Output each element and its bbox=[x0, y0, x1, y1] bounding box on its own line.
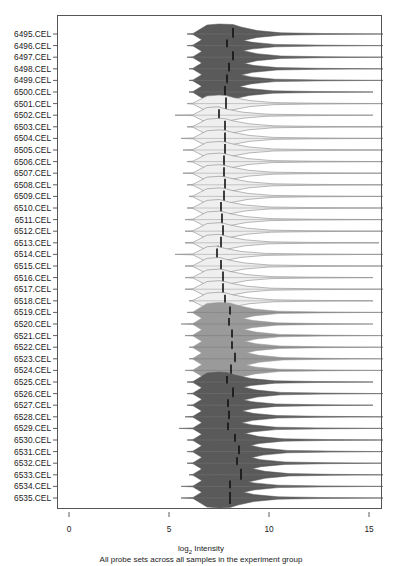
x-axis-title-base: log bbox=[178, 544, 189, 553]
y-tick-label: 6510.CEL bbox=[14, 203, 51, 213]
x-tick-label: 10 bbox=[264, 524, 274, 534]
y-tick-label: 6525.CEL bbox=[14, 377, 51, 387]
violin-chart: 6495.CEL6496.CEL6497.CEL6498.CEL6499.CEL… bbox=[0, 0, 402, 566]
y-tick-label: 6519.CEL bbox=[14, 307, 51, 317]
y-tick-label: 6497.CEL bbox=[14, 52, 51, 62]
x-tick-label: 15 bbox=[364, 524, 374, 534]
x-axis-title: log2 Intensity bbox=[0, 544, 402, 555]
x-tick-label: 5 bbox=[167, 524, 172, 534]
y-tick-label: 6533.CEL bbox=[14, 470, 51, 480]
y-tick-label: 6531.CEL bbox=[14, 447, 51, 457]
y-tick-label: 6524.CEL bbox=[14, 365, 51, 375]
y-tick-label: 6500.CEL bbox=[14, 87, 51, 97]
y-tick-label: 6529.CEL bbox=[14, 423, 51, 433]
y-tick-label: 6515.CEL bbox=[14, 261, 51, 271]
y-tick-label: 6503.CEL bbox=[14, 122, 51, 132]
y-tick-label: 6499.CEL bbox=[14, 75, 51, 85]
y-tick-label: 6508.CEL bbox=[14, 180, 51, 190]
y-tick-label: 6506.CEL bbox=[14, 157, 51, 167]
y-tick-label: 6512.CEL bbox=[14, 226, 51, 236]
y-tick-label: 6501.CEL bbox=[14, 99, 51, 109]
y-tick-label: 6522.CEL bbox=[14, 342, 51, 352]
y-tick-label: 6535.CEL bbox=[14, 493, 51, 503]
y-tick-label: 6507.CEL bbox=[14, 168, 51, 178]
y-tick-label: 6520.CEL bbox=[14, 319, 51, 329]
y-tick-label: 6527.CEL bbox=[14, 400, 51, 410]
y-tick-label: 6521.CEL bbox=[14, 331, 51, 341]
y-tick-label: 6532.CEL bbox=[14, 458, 51, 468]
y-tick-label: 6517.CEL bbox=[14, 284, 51, 294]
y-tick-label: 6495.CEL bbox=[14, 29, 51, 39]
y-tick-label: 6496.CEL bbox=[14, 41, 51, 51]
violin-layer bbox=[175, 24, 383, 508]
y-tick-label: 6530.CEL bbox=[14, 435, 51, 445]
y-tick-label: 6498.CEL bbox=[14, 64, 51, 74]
chart-subtitle: All probe sets across all samples in the… bbox=[0, 555, 402, 564]
y-tick-label: 6523.CEL bbox=[14, 354, 51, 364]
y-axis: 6495.CEL6496.CEL6497.CEL6498.CEL6499.CEL… bbox=[14, 29, 57, 503]
y-tick-label: 6504.CEL bbox=[14, 133, 51, 143]
y-tick-label: 6505.CEL bbox=[14, 145, 51, 155]
violin-row bbox=[181, 488, 383, 508]
y-tick-label: 6509.CEL bbox=[14, 191, 51, 201]
y-tick-label: 6518.CEL bbox=[14, 296, 51, 306]
x-tick-label: 0 bbox=[67, 524, 72, 534]
x-axis: 051015 bbox=[67, 512, 374, 534]
y-tick-label: 6513.CEL bbox=[14, 238, 51, 248]
y-tick-label: 6502.CEL bbox=[14, 110, 51, 120]
x-axis-title-rest: Intensity bbox=[192, 544, 224, 553]
y-tick-label: 6516.CEL bbox=[14, 273, 51, 283]
y-tick-label: 6534.CEL bbox=[14, 481, 51, 491]
y-tick-label: 6511.CEL bbox=[15, 215, 52, 225]
y-tick-label: 6528.CEL bbox=[14, 412, 51, 422]
y-tick-label: 6526.CEL bbox=[14, 389, 51, 399]
y-tick-label: 6514.CEL bbox=[14, 249, 51, 259]
